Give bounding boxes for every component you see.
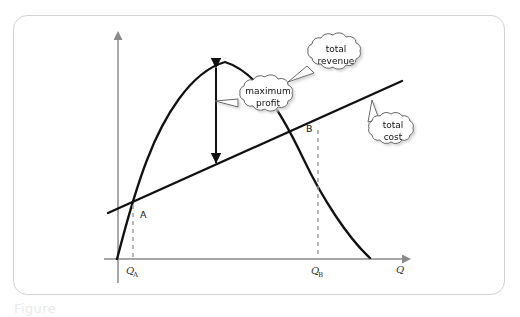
figure-caption-text: Figure — [14, 301, 274, 317]
axes-group — [104, 34, 408, 283]
total-revenue-label-line2: revenue — [318, 56, 355, 66]
point-label-a: A — [140, 209, 147, 220]
total-revenue-cloud-tail — [288, 66, 314, 82]
max-profit-label-line1: maximum — [245, 86, 290, 96]
max-profit-label-line2: profit — [256, 98, 280, 108]
callout-total-revenue: total revenue — [288, 33, 360, 82]
tick-qa-sub: A — [132, 271, 139, 279]
total-cost-label-line2: cost — [384, 132, 403, 142]
total-revenue-label-line1: total — [326, 44, 347, 54]
point-label-b: B — [306, 123, 313, 134]
callout-total-cost: total cost — [368, 100, 413, 144]
callout-maximum-profit: maximum profit — [215, 75, 292, 111]
tick-label-qb: Q B — [311, 265, 323, 279]
tick-label-qa: Q A — [126, 265, 139, 279]
total-cost-label-line1: total — [383, 120, 404, 130]
max-profit-cloud-tail — [215, 99, 238, 107]
x-axis-label: Q — [396, 264, 404, 275]
figure-caption: Figure — [14, 301, 274, 317]
tick-qb-sub: B — [318, 271, 323, 279]
economics-chart: A B Q A Q B Q maximum profit total reven… — [0, 0, 520, 317]
